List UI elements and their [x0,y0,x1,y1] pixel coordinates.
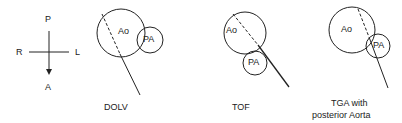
tga-caption-line1: TGA with [331,99,368,108]
posterior-label: P [45,15,51,24]
dolv-pa-label: PA [143,35,154,44]
tga-pa-label: PA [373,41,384,50]
tof-aorta-label: Ao [226,26,237,35]
tof-pa-label: PA [248,58,259,67]
dolv-caption: DOLV [104,103,128,112]
diagram-stage: P R L A Ao PA DOLV Ao PA TOF Ao PA TGA w… [0,0,402,123]
tof-diagram [224,12,289,87]
orientation-cross [29,31,69,72]
left-label: L [75,48,80,57]
tga-caption-line2: posterior Aorta [312,111,371,120]
dolv-diagram [97,9,163,95]
right-label: R [16,48,23,57]
dolv-aorta-label: Ao [118,27,129,36]
tof-caption: TOF [232,103,250,112]
tga-aorta-label: Ao [341,25,352,34]
anterior-label: A [45,83,51,92]
